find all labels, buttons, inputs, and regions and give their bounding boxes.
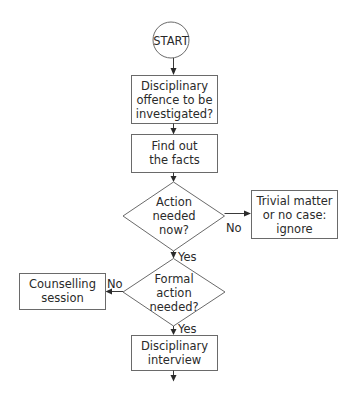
arrow-down-icon [171, 176, 177, 182]
arrow-down-icon [171, 68, 177, 75]
flowchart-diagram: START Disciplinary offence to be investi… [0, 0, 353, 402]
connector-formal-to-counselling: No [106, 277, 124, 295]
connector-offence-to-facts [171, 124, 177, 135]
interview-label-line-2: interview [148, 353, 201, 367]
start-node: START [153, 22, 190, 58]
action-no-label: No [226, 221, 242, 235]
action-now-label-line-3: now? [159, 223, 189, 237]
facts-node: Find out the facts [132, 135, 218, 173]
action-now-label-line-1: Action [156, 195, 192, 209]
counselling-label-line-2: session [41, 291, 84, 305]
arrow-down-icon [171, 375, 177, 382]
formal-action-node: Formal action needed? [123, 259, 225, 327]
counselling-node: Counselling session [20, 274, 106, 310]
facts-label-line-1: Find out [151, 139, 198, 153]
trivial-label-line-1: Trivial matter [255, 194, 332, 208]
arrow-down-icon [171, 128, 177, 135]
trivial-label-line-2: or no case: [263, 208, 327, 222]
counselling-label-line-1: Counselling [29, 277, 96, 291]
formal-action-label-line-2: action [156, 286, 191, 300]
offence-node: Disciplinary offence to be investigated? [132, 76, 218, 124]
facts-label-line-2: the facts [149, 153, 199, 167]
action-yes-label: Yes [177, 250, 197, 264]
offence-label-line-3: investigated? [136, 107, 213, 121]
connector-start-to-offence [171, 58, 177, 75]
trivial-label-line-3: ignore [276, 222, 312, 236]
offence-label-line-2: offence to be [137, 93, 213, 107]
connector-action-to-trivial: No [225, 211, 252, 236]
formal-no-label: No [107, 277, 123, 291]
arrow-down-icon [171, 252, 177, 259]
formal-yes-label: Yes [177, 322, 197, 336]
action-now-node: Action needed now? [123, 182, 225, 251]
formal-action-label-line-3: needed? [149, 300, 198, 314]
formal-action-label-line-1: Formal [154, 272, 193, 286]
trivial-node: Trivial matter or no case: ignore [252, 191, 338, 239]
start-label: START [153, 34, 189, 48]
offence-label-line-1: Disciplinary [141, 79, 208, 93]
connector-interview-continuation [171, 371, 177, 382]
interview-label-line-1: Disciplinary [141, 339, 208, 353]
action-now-label-line-2: needed [152, 209, 195, 223]
arrow-right-icon [244, 211, 251, 217]
arrow-down-icon [171, 329, 177, 335]
interview-node: Disciplinary interview [132, 336, 218, 371]
connector-facts-to-action [171, 173, 177, 183]
